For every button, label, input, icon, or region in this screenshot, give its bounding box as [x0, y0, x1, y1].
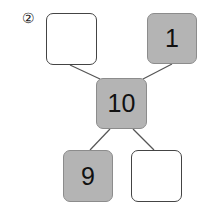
answer-box-top-left[interactable] — [46, 13, 97, 65]
answer-box-bottom-right[interactable] — [131, 150, 182, 202]
number-box-bottom-left: 9 — [63, 150, 113, 202]
number-box-center: 10 — [96, 78, 147, 129]
problem-number: ② — [22, 10, 35, 26]
number-box-top-right: 1 — [147, 13, 197, 64]
